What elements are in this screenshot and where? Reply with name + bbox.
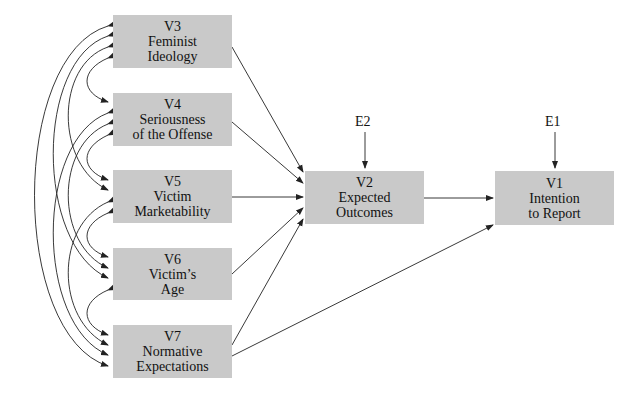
node-code: V7	[164, 329, 181, 344]
node-label: Marketability	[134, 204, 210, 219]
node-v6: V6 Victim’s Age	[113, 248, 232, 300]
node-label: Victim	[153, 189, 191, 204]
node-label: Expected	[338, 190, 390, 205]
node-v5: V5 Victim Marketability	[113, 170, 232, 223]
node-label: of the Offense	[133, 127, 213, 142]
node-label: Ideology	[148, 49, 198, 64]
node-code: V1	[546, 176, 563, 191]
node-code: V6	[164, 252, 181, 267]
node-label: Age	[161, 282, 184, 297]
node-v1: V1 Intention to Report	[495, 171, 614, 225]
node-v3: V3 Feminist Ideology	[113, 15, 232, 68]
node-code: V5	[164, 174, 181, 189]
path-diagram: V3 Feminist Ideology V4 Seriousness of t…	[0, 0, 630, 396]
node-code: V2	[356, 175, 373, 190]
node-code: V4	[164, 97, 181, 112]
node-label: Intention	[529, 191, 580, 206]
node-label: Normative	[143, 344, 203, 359]
node-v2: V2 Expected Outcomes	[305, 171, 424, 224]
node-label: Outcomes	[336, 205, 393, 220]
node-v7: V7 Normative Expectations	[113, 325, 232, 378]
node-label: Feminist	[148, 34, 197, 49]
node-label: Expectations	[136, 359, 208, 374]
error-term-e2: E2	[355, 114, 371, 130]
node-label: Seriousness	[139, 112, 205, 127]
node-v4: V4 Seriousness of the Offense	[113, 93, 232, 146]
node-label: Victim’s	[149, 267, 196, 282]
error-term-e1: E1	[545, 114, 561, 130]
node-label: to Report	[528, 206, 581, 221]
node-code: V3	[164, 19, 181, 34]
